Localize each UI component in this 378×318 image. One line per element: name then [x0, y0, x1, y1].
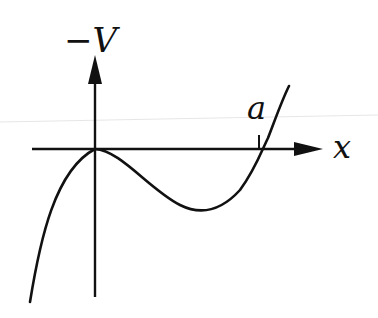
potential-diagram: −V a x: [0, 0, 378, 318]
x-axis-label: x: [333, 128, 351, 166]
scan-artifact-line: [0, 115, 378, 122]
root-label-a: a: [247, 89, 266, 127]
x-axis: [32, 142, 323, 156]
y-axis-label: −V: [64, 20, 120, 60]
y-axis: [88, 55, 102, 297]
x-axis-arrowhead-icon: [294, 142, 323, 156]
